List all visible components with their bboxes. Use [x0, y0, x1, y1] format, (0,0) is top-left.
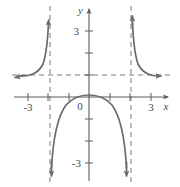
curve-left-branch-arrow-tail [15, 76, 24, 78]
curve-right-branch [132, 20, 161, 76]
y-tick-label-neg3: -3 [72, 157, 82, 169]
graph-container: -3 3 0 3 -3 x y [0, 0, 180, 187]
origin-label: 0 [77, 100, 83, 112]
x-axis-label: x [163, 100, 169, 112]
x-tick-label-pos3: 3 [148, 101, 154, 113]
function-graph: -3 3 0 3 -3 x y [0, 0, 180, 187]
x-tick-label-neg3: -3 [23, 101, 33, 113]
y-axis-label: y [77, 4, 83, 16]
y-tick-label-pos3: 3 [74, 25, 80, 37]
curve-left-branch [20, 20, 49, 76]
